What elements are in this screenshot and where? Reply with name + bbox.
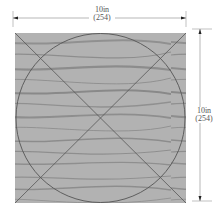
height-label: 10in (254) [191, 107, 217, 123]
diagram: 10in (254) 10in (254) [0, 0, 223, 215]
width-metric: (254) [90, 14, 114, 22]
height-metric: (254) [192, 115, 216, 123]
width-label: 10in (254) [89, 6, 115, 22]
diagram-canvas [0, 0, 223, 215]
